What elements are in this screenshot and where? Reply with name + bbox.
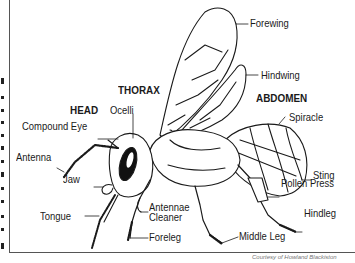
thorax-shape: [150, 130, 240, 187]
label-middle-leg: Middle Leg: [239, 230, 285, 242]
label-tongue: Tongue: [40, 210, 71, 222]
label-hindwing: Hindwing: [261, 69, 300, 81]
label-foreleg: Foreleg: [149, 231, 181, 243]
label-hindleg: Hindleg: [304, 207, 336, 219]
section-abdomen: ABDOMEN: [256, 92, 307, 104]
label-jaw: Jaw: [63, 173, 80, 185]
label-spiracle: Spiracle: [289, 111, 323, 123]
section-head: HEAD: [70, 104, 98, 116]
label-ocelli: Ocelli: [110, 104, 134, 116]
label-compound-eye: Compound Eye: [22, 120, 87, 132]
label-forewing: Forewing: [250, 17, 289, 29]
label-antennae-cleaner-line2: Cleaner: [149, 211, 182, 223]
label-antenna: Antenna: [16, 151, 51, 163]
section-thorax: THORAX: [118, 84, 160, 96]
label-pollen-press: Pollen Press: [281, 177, 334, 189]
image-credit: Courtesy of Howland Blackiston: [252, 254, 337, 260]
